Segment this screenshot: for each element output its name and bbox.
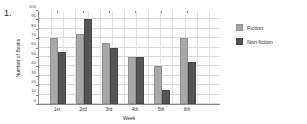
question-number: 1. xyxy=(4,8,12,18)
bar-non-fiction xyxy=(58,52,66,104)
bar-group xyxy=(97,11,123,104)
x-tick-mark xyxy=(161,11,162,13)
y-tick-mark xyxy=(36,95,38,96)
bar-fiction xyxy=(50,38,58,104)
bar-fiction xyxy=(102,43,110,104)
bar-group xyxy=(175,11,201,104)
plot-area xyxy=(38,11,220,105)
bar-series-container xyxy=(39,11,220,104)
y-tick-mark xyxy=(36,19,38,20)
x-tick-label: 2nd xyxy=(79,108,87,113)
bar-non-fiction xyxy=(84,19,92,104)
x-tick-label: 5th xyxy=(158,108,164,113)
y-tick-mark xyxy=(36,29,38,30)
y-tick-mark xyxy=(36,85,38,86)
bar-group xyxy=(123,11,149,104)
y-tick-label: 100 xyxy=(29,5,36,9)
chart-page: 1. 0102030405060708090100 1st2nd3rd4th5t… xyxy=(0,0,307,124)
x-tick-mark xyxy=(187,11,188,13)
legend-swatch-fiction xyxy=(236,24,243,31)
bar-non-fiction xyxy=(136,57,144,104)
bar-fiction xyxy=(128,57,136,104)
x-tick-mark xyxy=(135,11,136,13)
y-tick-label: 90 xyxy=(31,14,36,18)
x-tick-label: 1st xyxy=(54,108,60,113)
y-tick-label: 10 xyxy=(31,89,36,93)
bar-fiction xyxy=(76,34,84,105)
bar-group xyxy=(149,11,175,104)
bar-fiction xyxy=(180,38,188,104)
bar-group xyxy=(71,11,97,104)
y-tick-label: 50 xyxy=(31,52,36,56)
y-tick-label: 0 xyxy=(34,99,36,103)
y-tick-mark xyxy=(36,57,38,58)
y-tick-mark xyxy=(36,76,38,77)
legend-swatch-non-fiction xyxy=(236,38,243,45)
bar-fiction xyxy=(154,66,162,104)
y-axis-title: Number of Books xyxy=(15,39,21,78)
y-tick-label: 40 xyxy=(31,61,36,65)
y-tick-mark xyxy=(36,10,38,11)
y-tick-label: 20 xyxy=(31,80,36,84)
y-tick-mark xyxy=(36,104,38,105)
x-tick-label: 3rd xyxy=(106,108,113,113)
legend-item[interactable]: Fiction xyxy=(236,24,273,31)
legend-label: Fiction xyxy=(247,25,263,31)
y-tick-mark xyxy=(36,66,38,67)
y-tick-label: 70 xyxy=(31,33,36,37)
x-tick-mark xyxy=(109,11,110,13)
y-tick-label: 30 xyxy=(31,71,36,75)
x-tick-mark xyxy=(57,11,58,13)
bar-non-fiction xyxy=(110,48,118,104)
legend-item[interactable]: Non-fiction xyxy=(236,38,273,45)
y-tick-label: 80 xyxy=(31,24,36,28)
x-axis-title: Week xyxy=(123,115,136,121)
bar-group xyxy=(45,11,71,104)
chart-legend: FictionNon-fiction xyxy=(236,24,273,52)
x-tick-label: 6th xyxy=(184,108,190,113)
y-tick-label: 60 xyxy=(31,42,36,46)
y-tick-mark xyxy=(36,48,38,49)
bar-non-fiction xyxy=(162,90,170,104)
bar-non-fiction xyxy=(188,62,196,104)
y-tick-mark xyxy=(36,38,38,39)
bar-chart: 0102030405060708090100 1st2nd3rd4th5th6t… xyxy=(38,11,220,105)
x-tick-label: 4th xyxy=(132,108,138,113)
legend-label: Non-fiction xyxy=(247,39,273,45)
x-tick-mark xyxy=(83,11,84,13)
